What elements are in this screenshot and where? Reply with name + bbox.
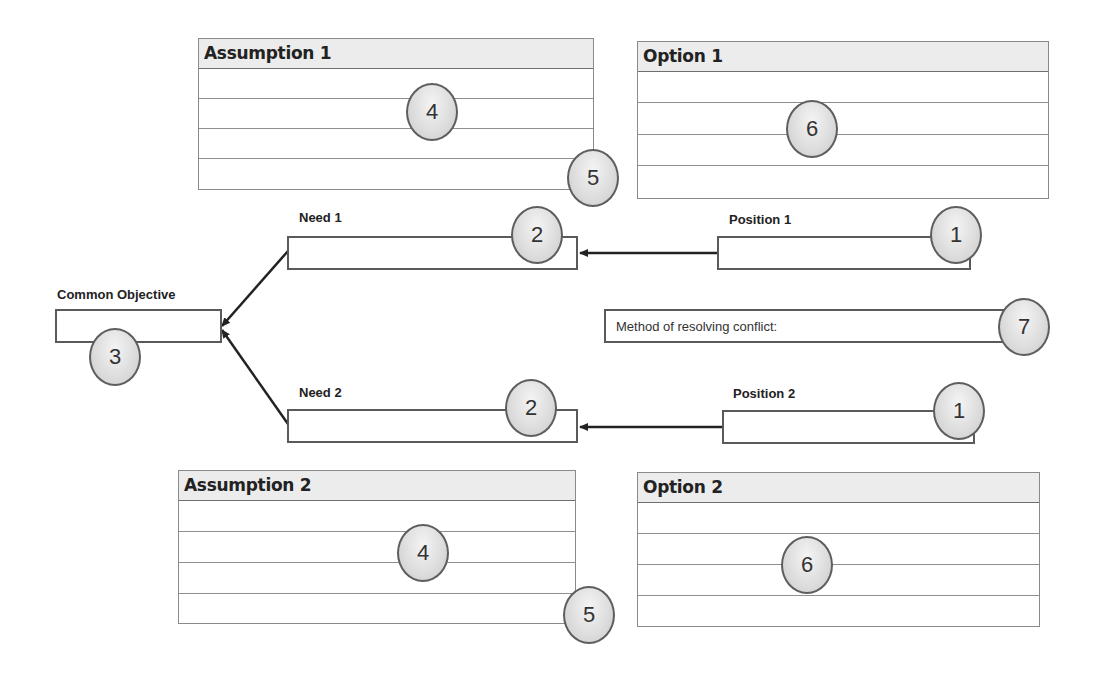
common-objective-field[interactable] [55,309,222,343]
step-badge-6: 6 [781,536,833,594]
step-badge-6: 6 [786,100,838,158]
option-2-row[interactable] [638,596,1039,627]
step-badge-5: 5 [567,149,619,207]
arrow-need2-to-objective [222,330,288,424]
assumption-2-table: Assumption 2 [178,470,576,624]
need-2-label: Need 2 [299,385,342,400]
step-badge-1: 1 [933,382,985,440]
assumption-2-row[interactable] [179,532,575,563]
option-2-table: Option 2 [637,472,1040,627]
assumption-2-row[interactable] [179,501,575,532]
option-1-table: Option 1 [637,41,1049,199]
option-2-row[interactable] [638,503,1039,534]
common-objective-label: Common Objective [57,287,175,302]
method-of-resolving-conflict-field[interactable]: Method of resolving conflict: [604,309,1024,343]
option-1-title: Option 1 [638,42,1048,72]
assumption-1-row[interactable] [199,99,593,129]
step-badge-2: 2 [511,206,563,264]
assumption-1-row[interactable] [199,129,593,159]
step-badge-3: 3 [89,328,141,386]
method-label: Method of resolving conflict: [616,319,777,334]
assumption-2-row[interactable] [179,563,575,594]
assumption-2-row[interactable] [179,594,575,625]
step-badge-7: 7 [998,298,1050,356]
need-1-label: Need 1 [299,210,342,225]
option-1-row[interactable] [638,72,1048,103]
assumption-1-row[interactable] [199,159,593,189]
assumption-1-row[interactable] [199,69,593,99]
assumption-1-table: Assumption 1 [198,38,594,190]
assumption-2-title: Assumption 2 [179,471,575,501]
step-badge-4: 4 [406,83,458,141]
step-badge-1: 1 [930,206,982,264]
option-2-row[interactable] [638,565,1039,596]
option-1-row[interactable] [638,103,1048,135]
arrow-need1-to-objective [222,251,288,326]
conflict-resolution-diagram: Assumption 1 Option 1 Need 1 Position 1 … [0,0,1104,683]
step-badge-5: 5 [563,586,615,644]
option-1-row[interactable] [638,135,1048,166]
option-2-row[interactable] [638,534,1039,565]
option-1-row[interactable] [638,166,1048,198]
position-1-label: Position 1 [729,212,791,227]
assumption-1-title: Assumption 1 [199,39,593,69]
option-2-title: Option 2 [638,473,1039,503]
step-badge-2: 2 [505,379,557,437]
step-badge-4: 4 [397,524,449,582]
position-2-label: Position 2 [733,386,795,401]
